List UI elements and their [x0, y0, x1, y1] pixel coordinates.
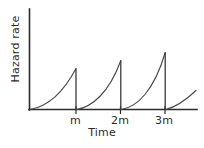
x-axis-title: Time	[0, 127, 204, 138]
hazard-curve-cycle-3	[121, 53, 165, 110]
hazard-curve-cycle-4-partial	[166, 91, 196, 110]
x-tick-label-m: m	[70, 115, 81, 126]
hazard-rate-figure: Hazard rate m 2m 3m Time	[0, 0, 204, 148]
x-tick-label-2m: 2m	[111, 115, 129, 126]
hazard-curve-cycle-2	[77, 61, 121, 110]
hazard-curve-cycle-1	[30, 69, 76, 110]
y-axis-title: Hazard rate	[10, 9, 21, 89]
y-axis-title-wrapper: Hazard rate	[10, 9, 24, 89]
x-tick-label-3m: 3m	[155, 115, 173, 126]
